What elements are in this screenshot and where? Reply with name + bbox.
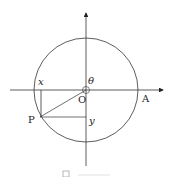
label-x: x: [38, 76, 44, 87]
label-p: P: [28, 114, 35, 125]
label-y: y: [88, 115, 95, 126]
label-a: A: [141, 93, 150, 104]
caption-icon: [63, 171, 69, 177]
label-origin: O: [78, 94, 86, 105]
unit-circle-figure: θ O A P x y: [0, 0, 170, 177]
diagram: θ O A P x y: [0, 0, 170, 177]
label-theta: θ: [88, 75, 94, 86]
